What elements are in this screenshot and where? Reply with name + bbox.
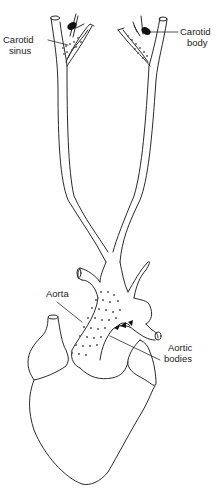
carotid-sinus-label-line2: sinus	[3, 45, 34, 56]
aorta-label-line1: Aorta	[46, 288, 69, 299]
carotid-sinus-leader	[48, 40, 68, 45]
carotid-body-label-line1: Carotid	[180, 26, 211, 37]
carotid-sinus-label-line1: Carotid	[3, 34, 34, 45]
aortic-body-3	[128, 320, 133, 326]
aorta	[72, 262, 161, 368]
aortic-arch-stipple	[71, 291, 121, 356]
carotid-sinus-label: Carotid sinus	[3, 34, 34, 56]
heart-artery-diagram	[0, 0, 218, 490]
aortic-body-1	[114, 324, 120, 330]
right-carotid-artery	[113, 16, 167, 262]
aortic-bodies-label-line2: bodies	[164, 353, 192, 364]
carotid-body-label: Carotid body	[180, 26, 211, 48]
left-carotid-artery	[51, 14, 109, 262]
heart	[28, 315, 156, 485]
aorta-label: Aorta	[46, 288, 69, 299]
aorta-leader	[57, 302, 82, 322]
aortic-bodies-label-line1: Aortic	[164, 342, 192, 353]
aortic-bodies-label: Aortic bodies	[164, 342, 192, 364]
carotid-body-label-line2: body	[180, 37, 211, 48]
